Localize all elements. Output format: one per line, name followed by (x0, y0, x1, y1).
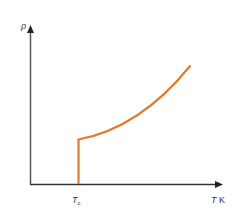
superconductor-resistivity-diagram: ρ Tc T K (0, 0, 236, 209)
y-axis-label: ρ (21, 22, 26, 31)
resistivity-curve (79, 66, 191, 140)
x-axis-arrow-icon (215, 181, 223, 188)
tc-tick-label: Tc (72, 196, 81, 206)
x-axis-label: T K (211, 196, 225, 205)
tc-label-sub: c (78, 200, 81, 206)
x-axis-label-unit: K (219, 195, 225, 205)
x-axis-label-var: T (211, 195, 217, 205)
y-axis-arrow-icon (27, 25, 34, 33)
diagram-canvas (0, 0, 236, 209)
